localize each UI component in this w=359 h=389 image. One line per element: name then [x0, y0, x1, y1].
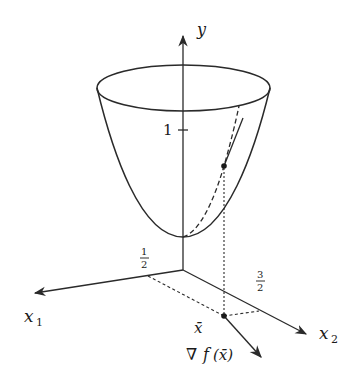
surface-point	[221, 163, 227, 169]
x-bar-point	[221, 313, 227, 319]
svg-text:∇: ∇	[186, 345, 197, 364]
projection-x1	[148, 276, 224, 316]
tangent-line	[224, 118, 243, 166]
x2-axis-label: x 2	[319, 323, 338, 346]
svg-text:2: 2	[331, 333, 338, 346]
paraboloid-diagram: 1 y x 1 x 2 1 2 3 2 x̄ ∇ f (x̄)	[0, 0, 359, 389]
svg-text:1: 1	[36, 316, 43, 329]
svg-text:1: 1	[141, 246, 147, 257]
svg-text:x: x	[24, 306, 34, 326]
x1-axis	[35, 270, 183, 293]
x-bar-label: x̄	[194, 319, 203, 337]
x1-tick-half-label: 1 2	[140, 246, 149, 270]
surface-section-curve	[183, 106, 239, 237]
projection-x2	[224, 311, 259, 316]
gradient-label: ∇ f (x̄)	[186, 345, 233, 364]
y-tick-one-label: 1	[163, 121, 173, 139]
y-axis-label: y	[196, 20, 207, 39]
x1-axis-label: x 1	[24, 306, 43, 329]
svg-text:f: f	[202, 345, 212, 364]
svg-text:(x̄): (x̄)	[213, 346, 233, 364]
svg-text:x: x	[319, 323, 329, 343]
svg-text:2: 2	[257, 282, 263, 293]
x2-tick-threehalves-label: 3 2	[256, 269, 265, 293]
svg-text:2: 2	[141, 259, 147, 270]
svg-text:3: 3	[257, 269, 263, 280]
